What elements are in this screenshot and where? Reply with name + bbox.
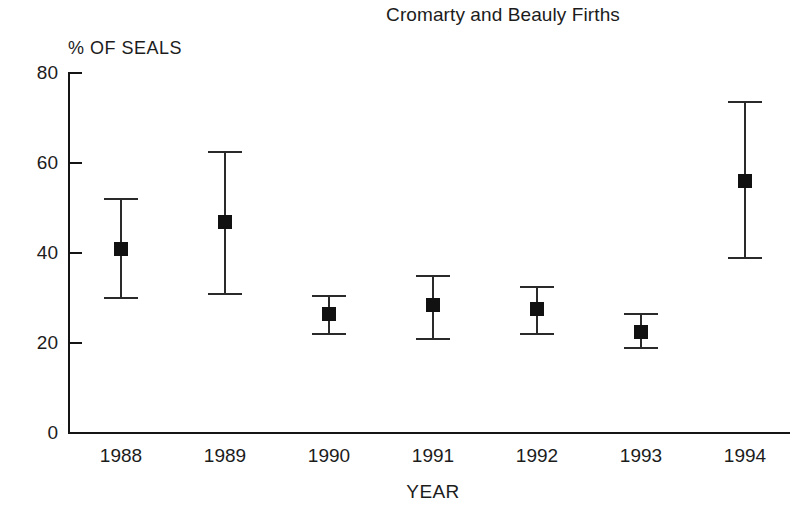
x-tick-label: 1989 [180,445,270,467]
x-tick-label: 1990 [284,445,374,467]
plot-area: 020406080 1988198919901991199219931994 [0,0,806,512]
error-bar-cap-lower [520,333,554,335]
marker-square [322,307,336,321]
error-bar-cap-upper [624,313,658,315]
y-tick-label: 0 [12,422,58,444]
x-tick-label: 1991 [388,445,478,467]
marker-square [530,302,544,316]
x-tick-label: 1994 [700,445,790,467]
y-tick-mark [68,432,82,434]
y-tick-mark [68,252,82,254]
error-bar-cap-upper [416,275,450,277]
y-tick-mark [68,342,82,344]
x-tick-label: 1992 [492,445,582,467]
error-bar-cap-lower [312,333,346,335]
x-tick-label: 1988 [76,445,166,467]
y-tick-mark [68,72,82,74]
y-tick-mark [68,162,82,164]
error-bar-cap-upper [728,101,762,103]
error-bar-cap-upper [312,295,346,297]
y-tick-label: 80 [12,62,58,84]
error-bar-cap-lower [416,338,450,340]
error-bar-cap-lower [208,293,242,295]
marker-square [426,298,440,312]
y-tick-label: 20 [12,332,58,354]
y-tick-label: 40 [12,242,58,264]
marker-square [218,215,232,229]
error-bar-cap-upper [104,198,138,200]
marker-square [738,174,752,188]
error-bar-cap-lower [728,257,762,259]
error-bar-cap-lower [104,297,138,299]
error-bar-cap-upper [520,286,554,288]
marker-square [114,242,128,256]
chart-page: Cromarty and Beauly Firths % OF SEALS 02… [0,0,806,512]
x-axis-line [68,432,790,434]
error-bar-cap-lower [624,347,658,349]
x-tick-label: 1993 [596,445,686,467]
x-axis-label: YEAR [388,481,478,503]
error-bar-cap-upper [208,151,242,153]
marker-square [634,325,648,339]
y-tick-label: 60 [12,152,58,174]
